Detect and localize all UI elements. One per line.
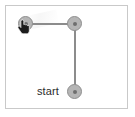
corner-node[interactable] [67, 16, 82, 31]
screenshot-canvas: start [0, 0, 135, 117]
edge-corner-to-start [74, 23, 76, 92]
diagram-panel: start [5, 5, 128, 109]
node-hub [73, 22, 77, 26]
start-node[interactable] [67, 84, 82, 99]
node-hub [24, 22, 28, 26]
top-left-node[interactable] [18, 16, 33, 31]
node-hub [73, 90, 77, 94]
diagram-surface[interactable]: start [6, 6, 127, 108]
start-label: start [37, 85, 59, 97]
